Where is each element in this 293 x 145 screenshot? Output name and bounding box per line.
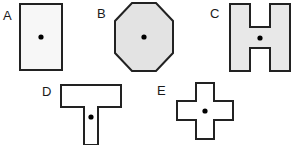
shape-rectangle-a [19,3,63,71]
center-dot [141,34,146,39]
shape-octagon-b [114,2,174,72]
shape-label-a: A [3,9,12,22]
shape-label-b: B [97,7,106,20]
shape-t-d [60,84,122,145]
shapes-figure: A B C D E [0,0,293,145]
center-dot [257,35,262,40]
center-dot [88,114,93,119]
shape-h-c [229,3,291,72]
center-dot [38,34,43,39]
shape-label-d: D [42,85,51,98]
shape-cross-e [176,82,234,140]
shape-label-c: C [210,7,219,20]
center-dot [202,108,207,113]
shape-label-e: E [157,84,166,97]
